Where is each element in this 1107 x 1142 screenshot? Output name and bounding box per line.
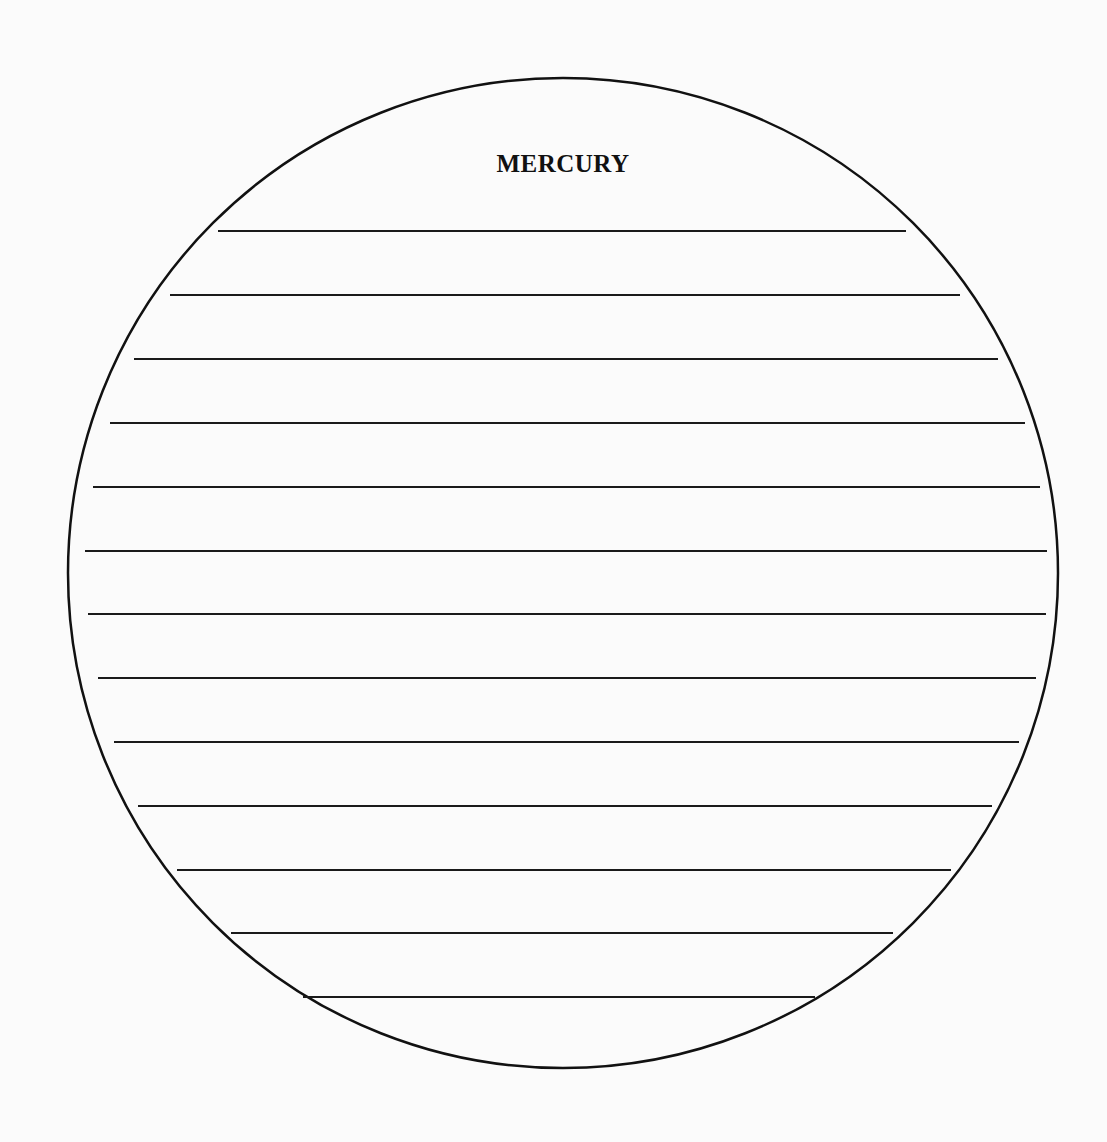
worksheet-title: MERCURY [263, 150, 863, 178]
planet-outline-circle [68, 78, 1058, 1068]
writing-lines [85, 231, 1047, 997]
worksheet-page: MERCURY [0, 0, 1107, 1142]
